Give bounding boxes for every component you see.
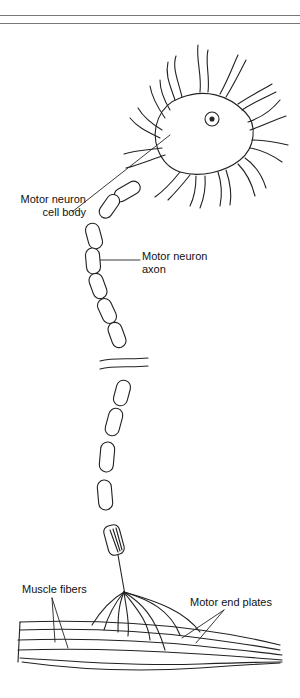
label-axon-line1: Motor neuron [142,250,207,263]
myelin-segments [84,179,143,511]
label-axon-line2: axon [142,263,207,276]
label-axon: Motor neuron axon [142,250,207,276]
label-cell-body: Motor neuron cell body [0,193,86,219]
label-cell-body-line2: cell body [0,206,86,219]
break-mark [100,358,148,361]
muscle-fibers [18,621,282,670]
label-motor-end-plates: Motor end plates [190,596,272,609]
label-cell-body-line1: Motor neuron [0,193,86,206]
label-muscle-fibers: Muscle fibers [22,583,87,596]
cell-body [124,45,288,208]
